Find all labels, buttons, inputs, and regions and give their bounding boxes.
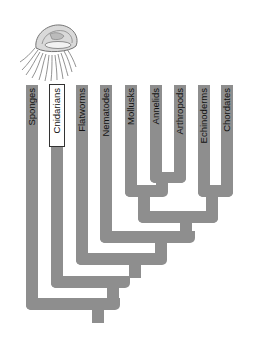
taxon-label-chordates: Chordates [221,88,233,132]
branch-flatworms-join [76,253,167,265]
branch-nematodes-stem [155,241,167,255]
taxon-label-flatworms: Flatworms [76,88,88,132]
taxon-label-annelids: Annelids [150,88,162,124]
branch-root-join [26,298,120,310]
branch-bilateria-join [138,211,218,223]
branch-root-stem [92,308,104,323]
branch-cnidarians-stem [107,286,119,300]
taxon-label-cnidarians: Cnidarians [51,88,63,133]
branch-flatworms-stem [129,263,141,278]
branch-bilateria-stem [180,221,192,233]
taxon-label-nematodes: Nematodes [100,88,112,137]
branch-cnidarians [51,146,63,288]
jellyfish-illustration [20,20,92,82]
taxon-label-arthropods: Arthropods [174,88,186,134]
taxon-label-echinoderms: Echinoderms [198,88,210,143]
taxon-label-mollusks: Mollusks [125,88,137,125]
taxon-label-sponges: Sponges [26,88,38,126]
